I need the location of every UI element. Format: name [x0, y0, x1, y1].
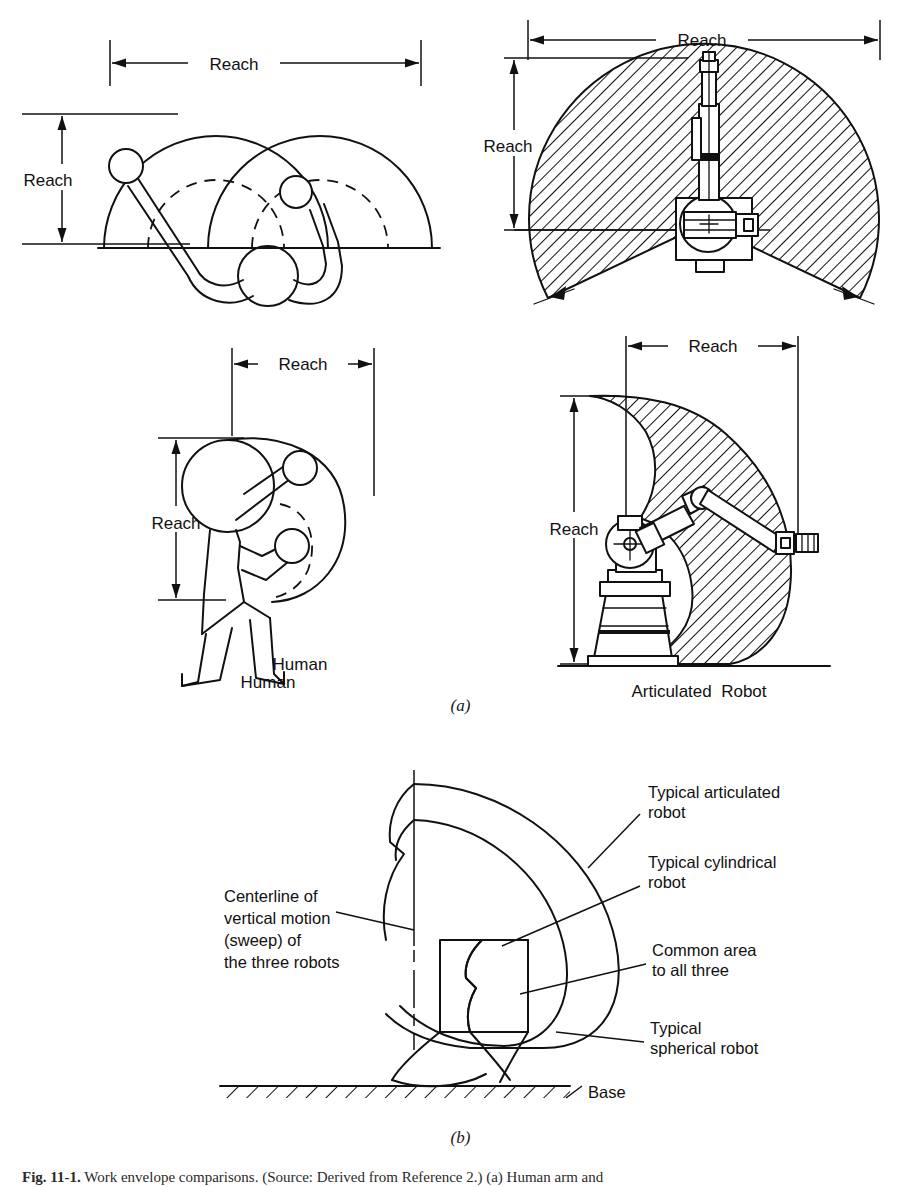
reach-label-vertical-bottom-right: Reach	[549, 520, 598, 539]
panel-a-robot-top-view: Reach Reach	[470, 8, 921, 328]
label-spherical-line2: spherical robot	[650, 1039, 759, 1057]
reach-label-vertical-top-left: Reach	[23, 171, 72, 190]
lower-envelope-arc	[392, 1074, 486, 1086]
articulated-inner-boundary	[384, 784, 414, 940]
label-centerline-line2: vertical motion	[224, 909, 330, 927]
panel-b-letter-wrap: (b)	[0, 1128, 921, 1148]
panel-a-articulated-robot-side-view: Reach Reach	[490, 330, 921, 680]
panel-a-human-top-view: Reach Reach	[0, 14, 460, 314]
reach-dimension-horizontal: Reach	[110, 40, 421, 86]
upper-hand-circle	[283, 451, 317, 485]
label-centerline-line3: (sweep) of	[224, 931, 301, 949]
leader-cylindrical	[502, 886, 640, 946]
left-leg	[182, 634, 206, 686]
label-cylindrical-line2: robot	[648, 873, 686, 891]
lower-envelope-left	[392, 1032, 440, 1080]
torso	[202, 530, 210, 634]
head-circle	[182, 440, 274, 532]
label-articulated-line1: Typical articulated	[648, 783, 780, 801]
spherical-envelope-outline	[400, 820, 567, 1046]
reach-label-horizontal-bottom-left: Reach	[278, 355, 327, 374]
panel-a-letter-wrap: (a)	[0, 696, 921, 716]
base-ground	[220, 1086, 570, 1098]
label-common-area-line2: to all three	[652, 961, 729, 979]
left-hand-circle	[109, 149, 143, 183]
human-caption: Human	[241, 673, 296, 692]
panel-b-combined-envelopes: Typical articulated robot Typical cylind…	[0, 750, 921, 1130]
label-articulated-line2: robot	[648, 803, 686, 821]
leader-common-area	[520, 964, 646, 994]
figure-caption-text: Work envelope comparisons. (Source: Deri…	[84, 1169, 603, 1185]
reach-dimension-vertical: Reach	[10, 114, 190, 244]
right-arm-outer	[289, 204, 342, 304]
left-arm	[137, 177, 243, 285]
panel-b-letter: (b)	[451, 1128, 471, 1147]
right-hand-circle	[280, 176, 312, 208]
chest-front	[236, 530, 244, 602]
figure-number: Fig. 11-1.	[22, 1169, 81, 1185]
label-centerline-line1: Centerline of	[224, 887, 318, 905]
label-cylindrical-line1: Typical cylindrical	[648, 853, 776, 871]
human-label-wrap: Human	[210, 655, 390, 675]
leader-articulated	[588, 814, 640, 868]
body-circle	[238, 246, 298, 306]
lower-hand-circle	[275, 529, 309, 563]
right-reach-arc	[208, 136, 432, 248]
label-common-area-line1: Common area	[652, 941, 757, 959]
left-inner-dashed-arc	[148, 180, 284, 248]
forearm-lower-edge	[242, 562, 288, 580]
lower-envelope-right2	[500, 1032, 528, 1082]
reach-label-horizontal-top-left: Reach	[209, 55, 258, 74]
reach-label-horizontal-bottom-right: Reach	[688, 337, 737, 356]
cylindrical-envelope-rect	[440, 940, 528, 1032]
label-base: Base	[588, 1083, 626, 1101]
leader-spherical	[556, 1032, 644, 1042]
label-spherical-line1: Typical	[650, 1019, 701, 1037]
reach-label-vertical-top-right: Reach	[483, 137, 532, 156]
panel-a-letter: (a)	[451, 696, 471, 715]
human-label: Human	[273, 655, 328, 674]
hip-line	[202, 602, 270, 634]
leader-centerline	[336, 912, 414, 930]
figure-caption: Fig. 11-1. Work envelope comparisons. (S…	[0, 1168, 921, 1187]
panel-a-human-side-view: Reach Reach	[140, 334, 470, 694]
common-area-hatched	[466, 940, 528, 1032]
label-centerline-line4: the three robots	[224, 953, 340, 971]
